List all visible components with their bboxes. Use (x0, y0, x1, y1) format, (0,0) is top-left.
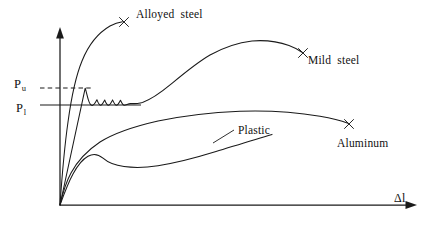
x-axis-label: Δl (394, 192, 405, 204)
leader-plastic (213, 130, 234, 143)
lower-yield-label-text: P (16, 101, 23, 115)
curve-mild-steel (60, 41, 302, 205)
curve-plastic (60, 134, 272, 205)
series-label-plastic: Plastic (238, 125, 270, 137)
load-elongation-chart: Pu Pl Alloyed steel Mild steel Plastic A… (0, 0, 436, 248)
lower-yield-label: Pl (16, 102, 26, 115)
leader-lines-group (213, 130, 234, 143)
marker-x-aluminum-icon (345, 120, 354, 129)
upper-yield-label: Pu (14, 78, 26, 91)
lower-yield-label-subscript: l (24, 107, 27, 117)
y-axis-arrowhead-icon (56, 27, 64, 39)
series-label-aluminum: Aluminum (337, 138, 388, 150)
upper-yield-label-subscript: u (22, 83, 26, 93)
series-label-alloyed-steel: Alloyed steel (136, 9, 203, 21)
yield-reference-lines (40, 88, 141, 105)
series-label-mild-steel: Mild steel (308, 55, 359, 67)
axes-group (56, 27, 417, 209)
marker-x-mild-steel-icon (299, 49, 308, 58)
chart-canvas (0, 0, 436, 248)
curve-alloyed-steel (60, 22, 123, 205)
upper-yield-label-text: P (14, 77, 21, 91)
x-axis-arrowhead-icon (406, 201, 418, 209)
curves-group (60, 22, 348, 205)
